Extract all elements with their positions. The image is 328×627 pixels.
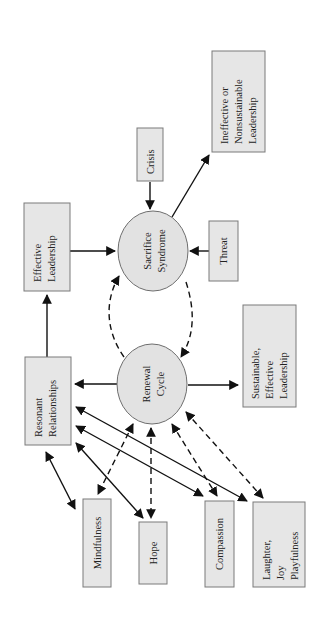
svg-text:Effective: Effective (32, 243, 43, 282)
svg-text:Ineffective or: Ineffective or (219, 87, 230, 144)
edge-sacrifice-to-renewal (181, 282, 192, 357)
svg-text:Syndrome: Syndrome (156, 229, 167, 273)
node-resonant-relationships: Resonant Relationships (25, 357, 71, 445)
node-renewal-cycle: Renewal Cycle (117, 344, 187, 424)
svg-text:Effective: Effective (264, 360, 275, 399)
edge-resonant-mindfulness (46, 452, 75, 509)
node-ineffective: Ineffective or Nonsustainable Leadership (212, 51, 265, 152)
svg-text:Threat: Threat (218, 237, 229, 264)
svg-text:Hope: Hope (148, 541, 159, 564)
svg-text:Relationships: Relationships (47, 380, 58, 437)
svg-text:Renewal: Renewal (141, 366, 152, 403)
svg-text:Crisis: Crisis (145, 149, 156, 174)
svg-text:Compassion: Compassion (214, 517, 225, 570)
svg-text:Laughter,: Laughter, (261, 540, 272, 580)
node-hope: Hope (139, 522, 167, 584)
node-threat: Threat (209, 221, 238, 281)
edge-renewal-to-sacrifice (109, 276, 124, 357)
svg-text:Leadership: Leadership (247, 97, 258, 144)
svg-text:Leadership: Leadership (278, 352, 289, 399)
node-effective-leadership: Effective Leadership (24, 203, 70, 291)
svg-text:Sustainable,: Sustainable, (250, 348, 261, 399)
node-crisis: Crisis (137, 128, 163, 181)
svg-text:Leadership: Leadership (46, 235, 57, 282)
svg-text:Resonant: Resonant (33, 398, 44, 437)
node-laughter-joy-playfulness: Laughter, Joy Playfulness (253, 502, 305, 587)
svg-text:Mindfulness: Mindfulness (92, 517, 103, 570)
svg-text:Joy: Joy (275, 565, 286, 580)
svg-text:Playfulness: Playfulness (289, 532, 300, 580)
node-compassion: Compassion (205, 501, 234, 587)
svg-text:Cycle: Cycle (155, 371, 166, 396)
node-sacrifice-syndrome: Sacrifice Syndrome (118, 211, 188, 291)
edges (46, 155, 263, 518)
diagram-canvas: Ineffective or Nonsustainable Leadership… (0, 0, 328, 627)
edge-resonant-compassion (76, 426, 203, 496)
node-mindfulness: Mindfulness (83, 499, 111, 587)
edge-renewal-mindfulness (98, 424, 133, 494)
edge-renewal-compassion (172, 424, 217, 496)
svg-text:Sacrifice: Sacrifice (142, 232, 153, 270)
edge-sacrifice-ineffective (172, 155, 209, 217)
edge-renewal-laughter (186, 412, 263, 498)
svg-text:Nonsustainable: Nonsustainable (233, 79, 244, 144)
node-sustainable-leadership: Sustainable, Effective Leadership (243, 305, 296, 407)
